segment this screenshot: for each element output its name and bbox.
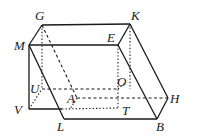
label-v: V <box>14 102 24 117</box>
label-e: E <box>106 30 115 45</box>
label-l: L <box>56 119 64 134</box>
edge-g-k <box>42 24 130 25</box>
edge-t-line <box>62 108 118 109</box>
edge-h-b <box>157 98 168 119</box>
parallelepiped-diagram: G K M E U O A H V L T B <box>0 0 197 139</box>
label-t: T <box>122 103 130 118</box>
edge-g-m <box>29 25 42 45</box>
label-m: M <box>13 38 26 53</box>
edge-k-h <box>130 24 168 98</box>
label-o: O <box>117 74 127 89</box>
label-k: K <box>130 8 141 23</box>
visible-edges <box>29 24 168 119</box>
edge-k-e <box>118 24 130 45</box>
label-b: B <box>156 119 164 134</box>
label-g: G <box>35 8 45 23</box>
label-a: A <box>66 91 75 106</box>
label-h: H <box>169 91 180 106</box>
label-u: U <box>30 81 41 96</box>
edge-g-a <box>42 25 77 98</box>
